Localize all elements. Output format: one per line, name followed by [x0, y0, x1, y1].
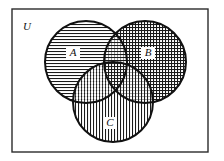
universal-set-label: U [23, 20, 32, 32]
set-label-c: C [106, 116, 114, 128]
set-label-b: B [145, 46, 152, 58]
venn-diagram-canvas: U A B C [0, 0, 224, 161]
set-label-group-b: B [141, 46, 155, 59]
universe-label-group: U [23, 20, 32, 32]
set-label-a: A [69, 46, 77, 58]
set-label-group-a: A [66, 46, 80, 59]
venn-diagram-figure: U A B C [0, 0, 224, 161]
set-label-group-c: C [104, 116, 117, 129]
